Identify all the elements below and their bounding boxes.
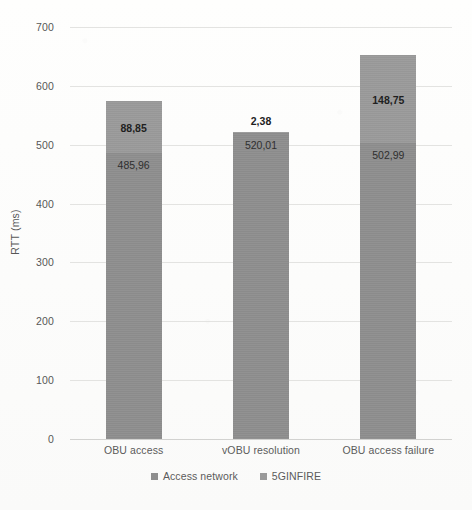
chart-legend: Access network5GINFIRE xyxy=(0,470,472,482)
bar-segment-access-network[interactable] xyxy=(106,153,162,439)
plot-area: 485,9688,85520,012,38502,99148,75 xyxy=(70,27,452,439)
stacked-bar-chart: RTT (ms) 0100200300400500600700 485,9688… xyxy=(0,0,472,510)
bar-segment-access-network[interactable] xyxy=(360,143,416,439)
data-label-5ginfire: 148,75 xyxy=(360,94,416,106)
y-axis-tick-label: 100 xyxy=(36,374,54,386)
data-label-access-network: 485,96 xyxy=(106,159,162,171)
bar-segment-access-network[interactable] xyxy=(233,133,289,439)
legend-item[interactable]: 5GINFIRE xyxy=(260,470,321,482)
data-label-5ginfire: 2,38 xyxy=(233,115,289,127)
x-axis-category-labels: OBU accessvOBU resolutionOBU access fail… xyxy=(70,444,452,460)
data-label-access-network: 520,01 xyxy=(233,139,289,151)
legend-swatch-icon xyxy=(151,473,158,480)
data-label-access-network: 502,99 xyxy=(360,149,416,161)
x-axis-category-label: OBU access failure xyxy=(325,444,452,456)
bar-column[interactable]: 502,99148,75 xyxy=(360,55,416,439)
x-axis-category-label: vOBU resolution xyxy=(197,444,324,456)
y-axis-tick-label: 200 xyxy=(36,315,54,327)
bar-column[interactable]: 520,012,38 xyxy=(233,132,289,439)
y-axis-tick-label: 0 xyxy=(48,433,54,445)
y-axis-tick-label: 600 xyxy=(36,80,54,92)
legend-label: Access network xyxy=(163,470,238,482)
bar-segment-5ginfire[interactable] xyxy=(233,132,289,133)
legend-item[interactable]: Access network xyxy=(151,470,238,482)
y-axis-tick-label: 400 xyxy=(36,198,54,210)
y-axis-tick-labels: 0100200300400500600700 xyxy=(0,27,62,439)
data-label-5ginfire: 88,85 xyxy=(106,122,162,134)
legend-swatch-icon xyxy=(260,473,267,480)
gridline xyxy=(70,27,452,28)
y-axis-tick-label: 300 xyxy=(36,256,54,268)
axis-baseline xyxy=(70,439,452,440)
legend-label: 5GINFIRE xyxy=(272,470,321,482)
bar-column[interactable]: 485,9688,85 xyxy=(106,101,162,439)
y-axis-tick-label: 500 xyxy=(36,139,54,151)
x-axis-category-label: OBU access xyxy=(70,444,197,456)
y-axis-tick-label: 700 xyxy=(36,21,54,33)
